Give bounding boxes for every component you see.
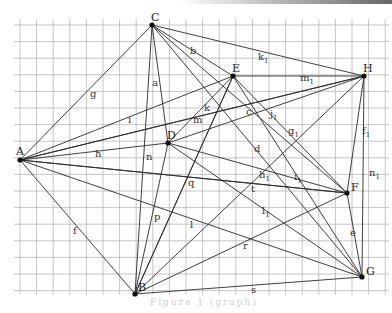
edge-label: l — [190, 219, 193, 230]
vertex-label-F: F — [351, 181, 359, 194]
edge-label: m — [193, 114, 203, 125]
edges — [20, 25, 364, 294]
edge-label: i — [128, 114, 131, 125]
edge-label: d — [254, 143, 261, 154]
vertex-label-C: C — [151, 11, 159, 24]
vertex-F — [344, 190, 349, 195]
edge-label: n — [146, 151, 153, 162]
edge-BF — [135, 193, 347, 294]
vertex-G — [359, 274, 364, 279]
edge-DE — [168, 76, 233, 143]
vertex-label-G: G — [366, 265, 375, 278]
edge-HG — [362, 76, 364, 277]
vertex-A — [17, 157, 22, 162]
vertex-label-D: D — [167, 129, 176, 142]
edge-label: b — [190, 45, 196, 56]
edge-label: a — [152, 77, 158, 88]
figure-caption: Figure 1 (graph) — [150, 297, 258, 307]
vertex-B — [132, 291, 137, 296]
edge-label: l1 — [262, 205, 270, 219]
edge-label: i1 — [294, 171, 302, 185]
edge-label: c — [246, 106, 252, 117]
edge-AH — [20, 76, 364, 160]
edge-label: n1 — [369, 167, 380, 181]
edge-label: j1 — [269, 108, 278, 122]
grid — [14, 19, 389, 295]
vertex-label-B: B — [138, 281, 146, 294]
vertex-label-E: E — [232, 62, 240, 75]
edge-label: p — [154, 211, 160, 222]
edge-label: s — [251, 284, 256, 295]
edge-label: g1 — [288, 125, 299, 139]
edge-label: h — [95, 148, 102, 159]
edge-label: k — [204, 102, 211, 113]
edge-label: e — [350, 227, 356, 238]
graph-diagram: gihflanbk1dmkh1l1m1qg1j1cf1n1eptrsi1 ABC… — [0, 0, 392, 313]
vertex-label-H: H — [363, 62, 373, 75]
edge-label: t — [251, 183, 255, 194]
edge-label: r — [243, 240, 248, 251]
edge-label: q — [188, 177, 195, 188]
edge-label: g — [90, 88, 97, 99]
vertex-label-A: A — [15, 145, 25, 158]
